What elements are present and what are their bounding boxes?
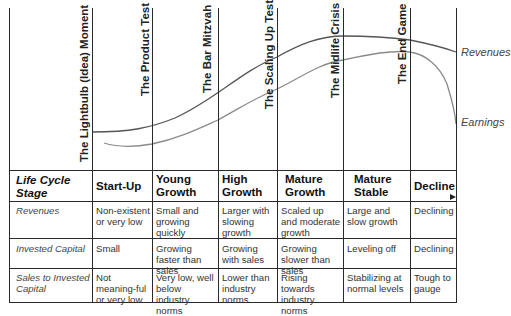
- header-life-cycle-stage: Life Cycle Stage: [16, 174, 90, 200]
- header-mature-growth: Mature Growth: [285, 173, 341, 199]
- milestone-bar-mitzvah: The Bar Mitzvah: [201, 5, 213, 93]
- cell-revenues-mature-stable: Large and slow growth: [344, 203, 406, 227]
- divider-decline: [410, 8, 411, 303]
- header-start-up: Start-Up: [96, 180, 152, 193]
- header-decline: Decline: [414, 180, 456, 193]
- cell-invested-decline: Declining: [411, 241, 456, 254]
- divider-startup: [92, 8, 93, 303]
- milestone-midlife-crisis: The Midlife Crisis: [329, 3, 341, 98]
- header-mature-stable: Mature Stable: [354, 173, 408, 199]
- header-bottom-line: [9, 201, 457, 202]
- cell-sales-decline: Tough to gauge: [411, 270, 456, 294]
- header-young-growth: Young Growth: [156, 173, 216, 199]
- row-label-revenues: Revenues: [13, 203, 91, 216]
- revenues-row-bottom-line: [9, 238, 457, 239]
- revenues-curve-label: Revenues: [461, 46, 511, 58]
- milestone-scaling-up: The Scaling Up Test: [263, 0, 275, 109]
- cell-revenues-startup: Non-existent or very low: [93, 203, 153, 227]
- cell-sales-young: Very low, well below industry norms: [153, 270, 217, 316]
- cell-revenues-high: Larger with slowing growth: [219, 203, 276, 238]
- cell-revenues-mature-growth: Scaled up and moderate growth: [278, 203, 342, 238]
- cell-revenues-decline: Declining: [411, 203, 456, 216]
- cell-invested-mature-stable: Leveling off: [344, 241, 406, 254]
- table-top-line: [9, 170, 457, 171]
- milestone-end-game: The End Game: [396, 3, 408, 84]
- cell-invested-high: Growing with sales: [219, 241, 277, 265]
- milestone-lightbulb: The Lightbulb (Idea) Moment: [78, 5, 90, 162]
- cell-sales-startup: Not meaning-ful or very low: [93, 270, 151, 305]
- cell-invested-startup: Small: [93, 241, 153, 254]
- milestone-product-test: The Product Test: [139, 3, 151, 96]
- row-label-invested-capital: Invested Capital: [13, 241, 91, 254]
- header-high-growth: High Growth: [222, 173, 276, 199]
- invested-row-bottom-line: [9, 268, 457, 269]
- cell-sales-mature-growth: Rising towards industry norms: [278, 270, 342, 316]
- right-border: [456, 8, 457, 303]
- earnings-curve-label: Earnings: [461, 116, 504, 128]
- left-border: [9, 8, 10, 303]
- row-label-sales-to-invested-capital: Sales to Invested Capital: [13, 270, 91, 294]
- cell-sales-mature-stable: Stabilizing at normal levels: [344, 270, 408, 294]
- cell-sales-high: Lower than industry norms: [219, 270, 275, 305]
- cell-revenues-young: Small and growing quickly: [153, 203, 213, 238]
